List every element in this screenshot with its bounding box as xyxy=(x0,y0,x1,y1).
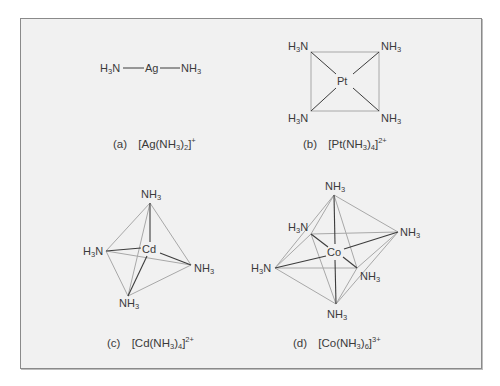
ligand-label-bottom: NH3 xyxy=(119,297,139,311)
ligand-label-left: H3N xyxy=(100,62,120,76)
ligand-label-tr: NH3 xyxy=(381,40,401,54)
ligand-label-bl: H3N xyxy=(288,112,308,126)
panel-b-square-planar: Pt H3N NH3 H3N NH3 (b) [Pt(NH3)4]2+ xyxy=(288,40,401,152)
ligand-label-left: H3N xyxy=(83,245,103,259)
caption-a: (a) [Ag(NH3)2]+ xyxy=(113,136,196,152)
bond xyxy=(353,88,379,111)
bond xyxy=(353,52,379,74)
metal-co: Co xyxy=(327,246,341,258)
ligand-label-front-right: NH3 xyxy=(360,270,380,284)
panel-c-tetrahedral: Cd NH3 H3N NH3 NH3 (c) [Cd(NH3)4]2+ xyxy=(83,188,214,351)
panel-d-octahedral: Co NH3 H3N NH3 H3N NH3 NH3 (d) [Co(NH3)6… xyxy=(251,180,420,351)
ligand-label-left: H3N xyxy=(251,262,271,276)
ligand-label-back-left: H3N xyxy=(288,221,308,235)
caption-b: (b) [Pt(NH3)4]2+ xyxy=(303,136,387,152)
caption-d: (d) [Co(NH3)6]3+ xyxy=(293,335,381,351)
ligand-label-right: NH3 xyxy=(400,226,420,240)
caption-c: (c) [Cd(NH3)4]2+ xyxy=(107,335,195,351)
metal-ag: Ag xyxy=(145,62,158,74)
ligand-label-bottom: NH3 xyxy=(327,308,347,322)
panel-a-linear: H3N Ag NH3 (a) [Ag(NH3)2]+ xyxy=(100,62,201,152)
ligand-label-top: NH3 xyxy=(325,180,345,194)
bond xyxy=(311,88,336,111)
metal-cd: Cd xyxy=(142,243,156,255)
ligand-label-right: NH3 xyxy=(194,262,214,276)
ligand-label-br: NH3 xyxy=(381,112,401,126)
ligand-label-right: NH3 xyxy=(181,62,201,76)
bond xyxy=(311,52,336,74)
coordination-geometry-diagram: H3N Ag NH3 (a) [Ag(NH3)2]+ Pt H3N NH3 H3… xyxy=(0,0,500,386)
ligand-label-top: NH3 xyxy=(141,188,161,202)
metal-pt: Pt xyxy=(337,75,347,87)
ligand-label-tl: H3N xyxy=(288,40,308,54)
